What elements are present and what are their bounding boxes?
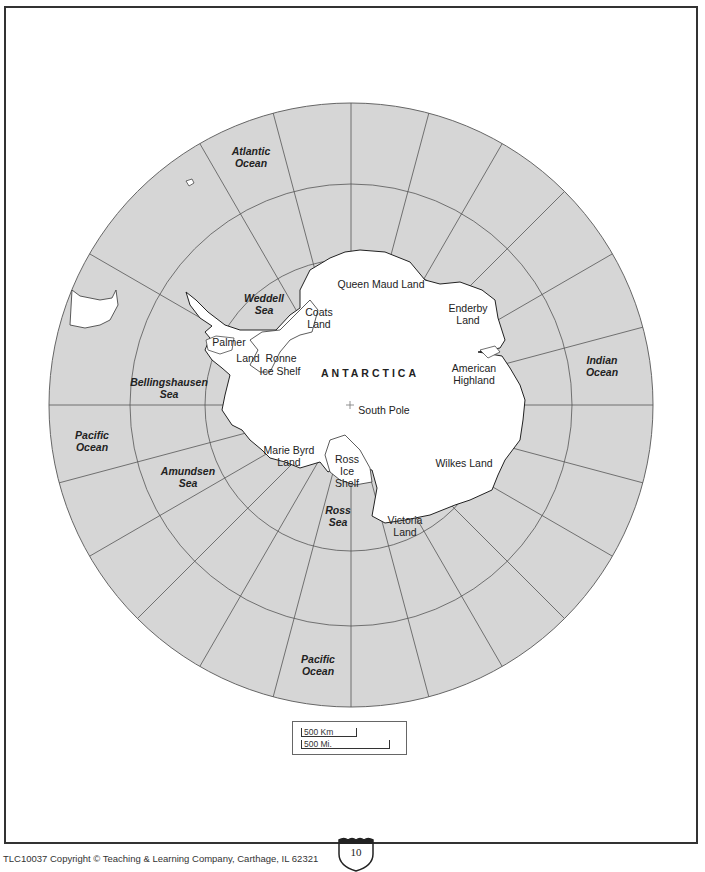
label-indian-ocean: IndianOcean [586,354,618,378]
label-ross-sea: RossSea [325,504,351,528]
label-american-highland: AmericanHighland [452,362,496,386]
label-weddell-sea: WeddellSea [244,292,284,316]
scale-km: 500 Km [301,728,357,737]
label-south-pole: South Pole [358,404,409,416]
label-amundsen-sea: AmundsenSea [161,465,215,489]
scale-mi: 500 Mi. [301,740,390,749]
label-victoria-land: VictoriaLand [388,514,423,538]
page-number: 10 [336,846,376,858]
page-number-badge: 10 [336,836,376,872]
label-ronne-ice-shelf: Ice Shelf [260,365,301,377]
label-coats-land: CoatsLand [305,306,332,330]
map-scale: 500 Km 500 Mi. [292,721,407,755]
label-ronne: Ronne [266,352,297,364]
label-atlantic-ocean: AtlanticOcean [232,145,271,169]
label-palmer-land: Land [236,352,259,364]
label-antarctica: ANTARCTICA [321,367,419,379]
label-wilkes-land: Wilkes Land [435,457,492,469]
label-palmer: Palmer [212,336,245,348]
label-enderby-land: EnderbyLand [448,302,487,326]
label-marie-byrd-land: Marie ByrdLand [264,444,315,468]
label-ross-ice-shelf: RossIceShelf [335,453,359,489]
label-bellingshausen-sea: BellingshausenSea [130,376,208,400]
label-pacific-ocean-west: PacificOcean [75,429,109,453]
label-queen-maud-land: Queen Maud Land [338,278,425,290]
label-pacific-ocean-south: PacificOcean [301,653,335,677]
copyright-text: TLC10037 Copyright © Teaching & Learning… [3,853,318,864]
